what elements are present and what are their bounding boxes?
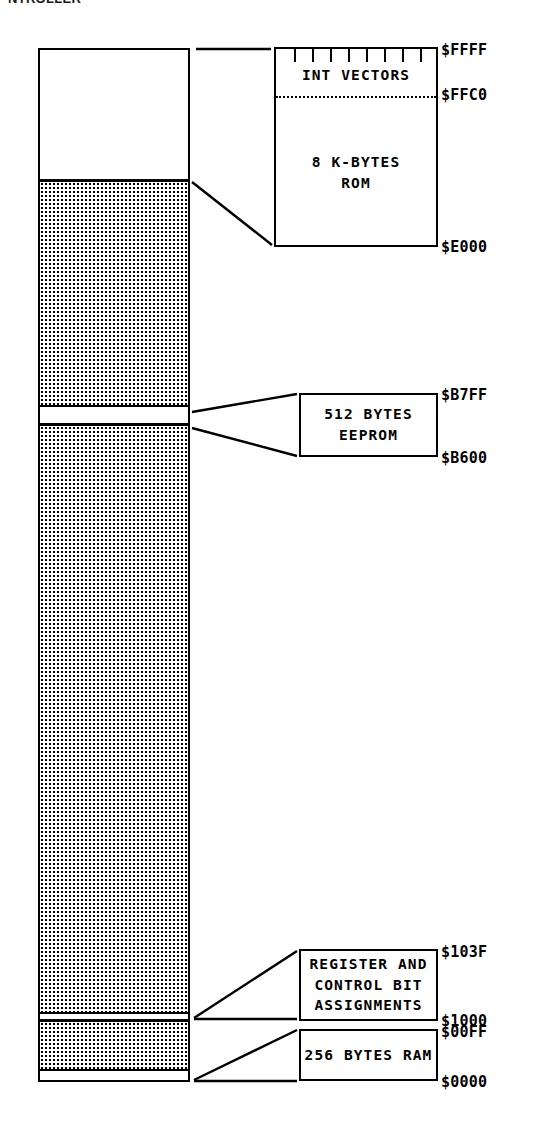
registers-label-line2: CONTROL BIT <box>314 975 422 996</box>
ram-label-line1: 256 BYTES RAM <box>305 1045 433 1066</box>
callout-eeprom: 512 BYTES EEPROM <box>299 393 438 457</box>
address-label-0000: $0000 <box>441 1073 487 1091</box>
memory-segment-ram <box>40 1071 188 1079</box>
registers-connector-diagonal <box>194 951 297 1018</box>
ffc0-boundary-divider <box>276 96 436 98</box>
eeprom-label-line2: EEPROM <box>339 425 398 446</box>
address-label-ffff: $FFFF <box>441 41 487 59</box>
eeprom-connector-top <box>192 394 297 412</box>
rom-connector-bottom <box>192 182 272 245</box>
callout-ram: 256 BYTES RAM <box>299 1029 438 1081</box>
registers-label-line3: ASSIGNMENTS <box>314 995 422 1016</box>
address-label-00ff: $00FF <box>441 1023 487 1041</box>
address-label-e000: $E000 <box>441 238 487 256</box>
int-vectors-label: INT VECTORS <box>276 65 436 86</box>
memory-segment-unused-middle <box>40 426 188 1012</box>
ram-connector-diagonal <box>194 1030 297 1080</box>
rom-size-label-line1: 8 K-BYTES <box>276 152 436 173</box>
memory-map-diagram: NTROLLER <box>0 0 533 1131</box>
address-label-ffc0: $FFC0 <box>441 86 487 104</box>
clipped-header-text: NTROLLER <box>8 0 81 6</box>
memory-segment-eeprom <box>40 407 188 423</box>
memory-address-space-column <box>38 48 190 1082</box>
interrupt-vector-ticks <box>276 49 436 62</box>
eeprom-label-line1: 512 BYTES <box>324 404 412 425</box>
address-label-b7ff: $B7FF <box>441 386 487 404</box>
address-label-b600: $B600 <box>441 449 487 467</box>
eeprom-connector-bottom <box>192 428 297 456</box>
registers-label-line1: REGISTER AND <box>310 954 428 975</box>
memory-segment-unused-upper <box>40 182 188 405</box>
callout-registers: REGISTER AND CONTROL BIT ASSIGNMENTS <box>299 949 438 1021</box>
memory-segment-unused-lower <box>40 1022 188 1069</box>
rom-size-label-line2: ROM <box>276 173 436 194</box>
memory-segment-rom <box>40 50 188 179</box>
callout-rom: INT VECTORS 8 K-BYTES ROM <box>274 47 438 247</box>
address-label-103f: $103F <box>441 943 487 961</box>
